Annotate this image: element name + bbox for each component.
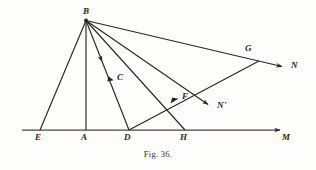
figure-36: B C E A D H M G F N N' Fig. 36. <box>0 0 316 170</box>
vertex-dot-B <box>84 19 88 23</box>
point-label-F: F <box>182 92 188 101</box>
point-label-C: C <box>117 73 123 82</box>
segment-B-Nprime <box>86 21 208 105</box>
segment-B-N <box>86 21 282 67</box>
c-arrowhead-icon <box>107 76 113 81</box>
point-label-E: E <box>35 133 41 142</box>
point-label-M: M <box>282 133 290 142</box>
point-label-H: H <box>180 133 187 142</box>
segment-B-H <box>86 21 185 131</box>
segment-B-E <box>40 21 86 131</box>
point-label-A: A <box>81 133 87 142</box>
point-label-G: G <box>245 44 252 53</box>
f-arrowhead-icon <box>171 97 179 103</box>
figure-canvas <box>0 0 316 170</box>
segment-D-G <box>129 61 259 130</box>
point-label-N: N <box>291 61 298 70</box>
figure-caption: Fig. 36. <box>0 150 316 159</box>
diagram-lines <box>22 19 282 130</box>
point-label-D: D <box>124 133 131 142</box>
point-label-B: B <box>83 7 89 16</box>
point-label-N-prime: N' <box>217 101 226 110</box>
